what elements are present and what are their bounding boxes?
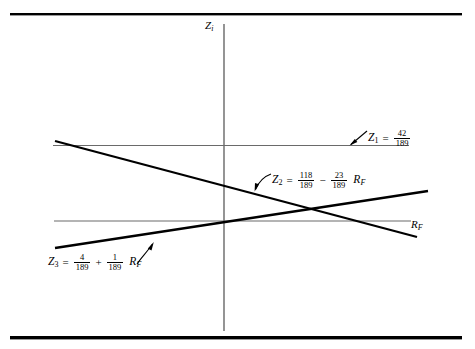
top-border-rule xyxy=(10,13,462,15)
z3-fraction-2-denominator: 189 xyxy=(107,262,124,272)
z3-operator: + xyxy=(95,257,101,268)
z1-equals: = xyxy=(382,133,388,144)
z3-variable: Z3 xyxy=(48,256,58,269)
z3-fraction-2: 1 189 xyxy=(107,253,124,272)
z2-fraction-2-denominator: 189 xyxy=(331,180,348,190)
z1-variable: Z1 xyxy=(368,132,378,145)
z3-rf-term: RF xyxy=(129,256,141,269)
z2-fraction-2-numerator: 23 xyxy=(333,171,346,180)
z2-variable: Z2 xyxy=(272,174,282,187)
annotation-arrow-z1 xyxy=(350,131,368,146)
z2-fraction-1-numerator: 118 xyxy=(298,171,314,180)
annotation-arrow-z2 xyxy=(255,174,271,192)
x-axis-label-var: R xyxy=(411,218,418,230)
z1-fraction-numerator: 42 xyxy=(396,129,409,138)
z3-fraction-1-numerator: 4 xyxy=(78,253,86,262)
chart-canvas xyxy=(0,0,475,349)
z3-fraction-1: 4 189 xyxy=(74,253,91,272)
x-axis-label-subscript: F xyxy=(418,223,423,232)
z1-fraction: 42 189 xyxy=(394,129,411,148)
z1-fraction-denominator: 189 xyxy=(394,138,411,148)
y-axis-label: Zi xyxy=(205,20,213,33)
bottom-border-rule xyxy=(10,336,462,339)
z3-fraction-2-numerator: 1 xyxy=(111,253,119,262)
y-axis-label-subscript: i xyxy=(211,24,213,33)
z3-fraction-1-denominator: 189 xyxy=(74,262,91,272)
z2-fraction-1-denominator: 189 xyxy=(298,180,315,190)
series-line-z3 xyxy=(55,191,428,248)
z2-equals: = xyxy=(286,175,292,186)
annotation-label-z3: Z3 = 4 189 + 1 189 RF xyxy=(48,252,141,272)
z2-operator: − xyxy=(319,175,325,186)
z3-equals: = xyxy=(62,257,68,268)
figure-container: Zi RF Z1 = 42 189 Z2 = 118 189 − 23 18 xyxy=(0,0,475,349)
z2-fraction-1: 118 189 xyxy=(298,171,315,190)
z2-rf-term: RF xyxy=(353,174,365,187)
annotation-label-z2: Z2 = 118 189 − 23 189 RF xyxy=(272,170,365,190)
z2-fraction-2: 23 189 xyxy=(331,171,348,190)
x-axis-label: RF xyxy=(411,219,423,232)
annotation-label-z1: Z1 = 42 189 xyxy=(368,128,411,148)
